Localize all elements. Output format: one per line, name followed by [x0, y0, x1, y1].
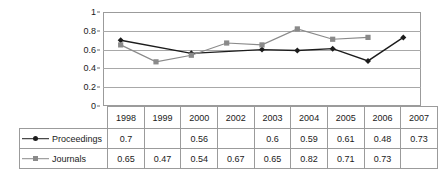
cell-proceedings-2003: 0.6: [254, 129, 291, 149]
x-axis-label-2006: 2006: [364, 107, 401, 129]
y-tick-mark: [97, 49, 100, 50]
cell-proceedings-2005: 0.61: [327, 129, 364, 149]
cell-journals-2003: 0.65: [254, 149, 291, 169]
cell-proceedings-2006: 0.48: [364, 129, 401, 149]
cell-journals-2004: 0.82: [291, 149, 328, 169]
x-axis-label-2003: 2003: [254, 107, 291, 129]
data-point-journals: [224, 40, 229, 45]
cell-journals-2002: 0.67: [218, 149, 255, 169]
cell-proceedings-1998: 0.7: [108, 129, 145, 149]
y-tick-label: 0.8: [83, 26, 96, 35]
line-chart: 1 0.8 0.6 0.4 0.2 0 1998 1999 2000 2002: [0, 0, 438, 173]
cell-proceedings-2004: 0.59: [291, 129, 328, 149]
cell-proceedings-2000: 0.56: [181, 129, 218, 149]
data-point-proceedings: [330, 46, 336, 52]
x-axis-label-2007: 2007: [401, 107, 438, 129]
series-line-journals: [121, 29, 368, 62]
data-point-journals: [330, 37, 335, 42]
plot-area: [103, 12, 421, 106]
cell-proceedings-2002: [218, 129, 255, 149]
table-row-proceedings: Proceedings 0.7 0.56 0.6 0.59 0.61 0.48 …: [20, 129, 438, 149]
cell-journals-1999: 0.47: [144, 149, 181, 169]
cell-journals-2007: [401, 149, 438, 169]
data-point-proceedings: [294, 48, 300, 54]
x-axis-label-1998: 1998: [108, 107, 145, 129]
data-point-journals: [365, 35, 370, 40]
y-tick-mark: [97, 87, 100, 88]
data-point-journals: [259, 42, 264, 47]
cell-journals-2000: 0.54: [181, 149, 218, 169]
cell-proceedings-1999: [144, 129, 181, 149]
legend-item-proceedings: Proceedings: [20, 129, 108, 149]
y-tick-label: 0.2: [83, 83, 96, 92]
legend-label-proceedings: Proceedings: [49, 134, 102, 144]
y-axis: 1 0.8 0.6 0.4 0.2 0: [70, 12, 100, 106]
table-corner-cell: [20, 107, 108, 129]
cell-proceedings-2007: 0.73: [401, 129, 438, 149]
y-tick-label: 0.4: [83, 64, 96, 73]
data-point-journals: [295, 26, 300, 31]
x-axis-label-2004: 2004: [291, 107, 328, 129]
y-tick-mark: [97, 30, 100, 31]
y-tick-mark: [97, 68, 100, 69]
table-row-journals: Journals 0.65 0.47 0.54 0.67 0.65 0.82 0…: [20, 149, 438, 169]
data-point-journals: [153, 59, 158, 64]
cell-journals-2005: 0.71: [327, 149, 364, 169]
y-tick-label: 1: [91, 8, 96, 17]
data-table: 1998 1999 2000 2002 2003 2004 2005 2006 …: [19, 106, 438, 169]
data-point-journals: [189, 53, 194, 58]
cell-journals-2006: 0.73: [364, 149, 401, 169]
x-axis-label-1999: 1999: [144, 107, 181, 129]
y-tick-label: 0.6: [83, 45, 96, 54]
x-axis-label-2005: 2005: [327, 107, 364, 129]
y-tick-mark: [97, 12, 100, 13]
x-axis-label-2002: 2002: [218, 107, 255, 129]
data-point-journals: [118, 42, 123, 47]
proceedings-marker-icon: [22, 134, 49, 144]
cell-journals-1998: 0.65: [108, 149, 145, 169]
x-axis-label-2000: 2000: [181, 107, 218, 129]
table-row-years: 1998 1999 2000 2002 2003 2004 2005 2006 …: [20, 107, 438, 129]
series-plot: [103, 12, 421, 106]
legend-label-journals: Journals: [49, 154, 86, 164]
journals-marker-icon: [22, 154, 49, 164]
legend-item-journals: Journals: [20, 149, 108, 169]
